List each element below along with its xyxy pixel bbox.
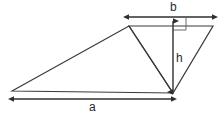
dimension-label-h: h xyxy=(176,52,183,64)
right-angle-marker xyxy=(173,18,186,30)
figure-canvas xyxy=(0,0,221,117)
dimension-label-a: a xyxy=(89,101,96,113)
right-side-triangle xyxy=(129,26,213,93)
large-oblique-triangle xyxy=(12,26,173,93)
geometry-figure: b h a xyxy=(0,0,221,117)
dimension-label-b: b xyxy=(170,1,177,13)
